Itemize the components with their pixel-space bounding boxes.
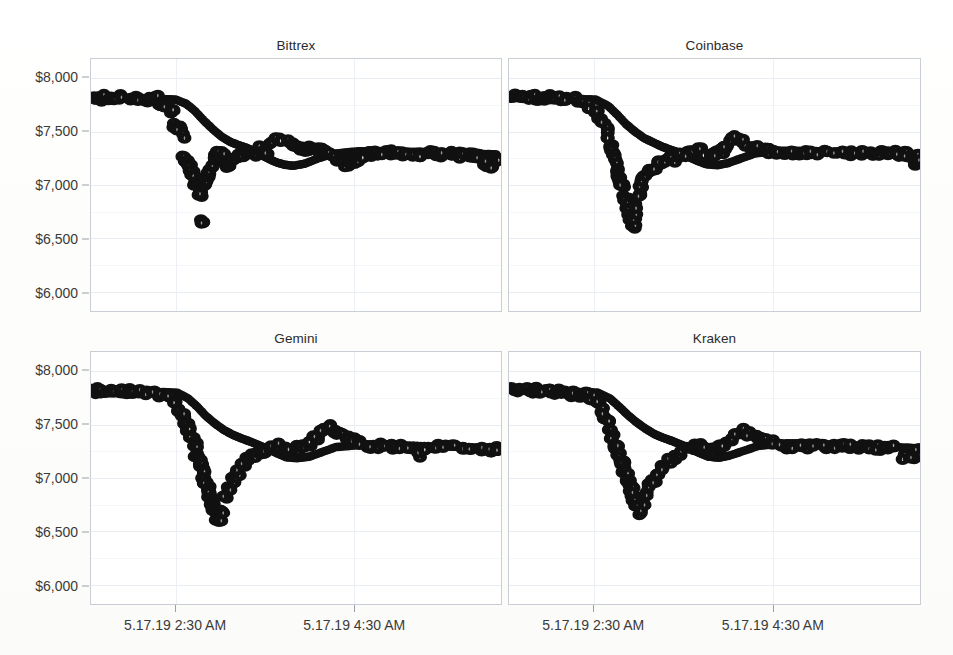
y-axis-tick-mark	[82, 77, 89, 78]
panel-bittrex: Bittrex	[90, 38, 502, 312]
y-axis-tick-label: $7,500	[0, 416, 78, 432]
observed-trade-point	[261, 149, 269, 157]
plot-area	[90, 351, 502, 605]
x-axis-tick-label: 5.17.19 2:30 AM	[542, 617, 644, 633]
observed-trade-point	[493, 446, 501, 454]
y-axis-tick-mark	[82, 292, 89, 293]
y-axis-tick-label: $8,000	[0, 362, 78, 378]
observed-trade-point	[561, 96, 569, 104]
y-axis-tick-mark	[82, 370, 89, 371]
x-axis-tick-mark	[773, 605, 774, 612]
y-axis-tick-label: $6,000	[0, 578, 78, 594]
observed-trade-point	[635, 192, 643, 200]
panel-gemini: Gemini	[90, 331, 502, 605]
x-axis-tick-label: 5.17.19 4:30 AM	[722, 617, 824, 633]
panel-title: Kraken	[508, 331, 921, 346]
observed-trade-point	[605, 417, 613, 425]
plot-area	[90, 58, 502, 312]
x-axis-tick-label: 5.17.19 2:30 AM	[124, 617, 226, 633]
observed-trade-point	[820, 441, 828, 449]
series-layer	[91, 59, 501, 311]
observed-trade-point	[658, 466, 666, 474]
y-axis-tick-label: $6,000	[0, 285, 78, 301]
observed-trade-point	[180, 410, 188, 418]
y-axis-tick-mark	[82, 585, 89, 586]
observed-trade-point	[198, 219, 206, 227]
observed-trade-point	[901, 152, 909, 160]
panel-coinbase: Coinbase	[508, 38, 921, 312]
panel-title: Bittrex	[90, 38, 502, 53]
observed-trade-point	[743, 432, 751, 440]
y-axis-tick-mark	[82, 531, 89, 532]
plot-area	[508, 58, 921, 312]
observed-trade-point	[495, 156, 501, 164]
y-axis-tick-label: $6,500	[0, 231, 78, 247]
y-axis-tick-mark	[82, 424, 89, 425]
observed-trade-point	[465, 445, 473, 453]
x-axis-tick-mark	[354, 605, 355, 612]
x-axis-tick-label: 5.17.19 4:30 AM	[303, 617, 405, 633]
observed-trade-point	[616, 181, 624, 189]
y-axis-tick-label: $7,500	[0, 123, 78, 139]
observed-trade-point	[643, 492, 651, 500]
y-axis-tick-label: $6,500	[0, 524, 78, 540]
y-axis-tick-label: $7,000	[0, 177, 78, 193]
series-layer	[509, 352, 920, 604]
x-axis-tick-mark	[175, 605, 176, 612]
y-axis-tick-mark	[82, 478, 89, 479]
observed-trade-point	[912, 446, 920, 454]
panel-title: Coinbase	[508, 38, 921, 53]
series-layer	[509, 59, 920, 311]
y-axis-tick-label: $7,000	[0, 470, 78, 486]
observed-trade-point	[404, 444, 412, 452]
observed-trade-point	[169, 106, 177, 114]
y-axis-tick-mark	[82, 185, 89, 186]
small-multiples-grid: $8,000$7,500$7,000$6,500$6,000 $8,000$7,…	[0, 0, 953, 655]
plot-area	[508, 351, 921, 605]
observed-trade-point	[915, 156, 920, 164]
panel-title: Gemini	[90, 331, 502, 346]
observed-trade-point	[718, 442, 726, 450]
observed-trade-point	[219, 509, 227, 517]
observed-trade-point	[890, 441, 898, 449]
y-axis-tick-mark	[82, 238, 89, 239]
observed-trade-point	[487, 164, 495, 172]
x-axis-tick-mark	[593, 605, 594, 612]
observed-trade-point	[632, 204, 640, 212]
y-axis-tick-mark	[82, 131, 89, 132]
y-axis-tick-label: $8,000	[0, 69, 78, 85]
series-layer	[91, 352, 501, 604]
observed-trade-point	[641, 501, 649, 509]
panel-kraken: Kraken	[508, 331, 921, 605]
observed-trade-point	[181, 134, 189, 142]
